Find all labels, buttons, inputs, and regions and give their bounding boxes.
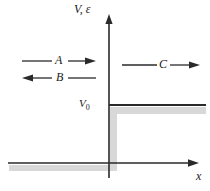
x-axis-arrowhead	[188, 159, 199, 167]
step-plateau-shadow	[113, 107, 206, 114]
v0-level-label-subscript: 0	[86, 103, 90, 112]
y-axis-arrowhead	[105, 14, 112, 24]
shading-group	[9, 107, 206, 171]
y-axis-label: V, ε	[74, 3, 91, 15]
transmitted-wave-arrowhead	[189, 61, 200, 68]
reflected-wave-label: B	[56, 71, 63, 83]
step-riser-shadow	[110, 107, 117, 171]
v0-level-label-base: V	[79, 97, 86, 109]
transmitted-wave-label: C	[159, 58, 167, 70]
x-axis-label: x	[196, 170, 201, 182]
reflected-wave-arrowhead	[22, 74, 33, 81]
incident-wave-arrowhead	[85, 57, 96, 64]
v0-level-label: V0	[79, 98, 90, 112]
wave-arrows-group	[22, 57, 200, 81]
incident-wave-label: A	[55, 54, 62, 66]
axes-group	[8, 14, 199, 178]
potential-step-diagram: V, ε x V0 A B C	[0, 0, 210, 191]
x-axis-shadow	[9, 165, 114, 171]
diagram-canvas	[0, 0, 210, 191]
